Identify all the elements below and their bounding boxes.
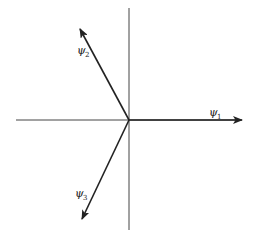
label-psi2-subscript: 2 [85, 51, 89, 59]
label-psi1: ψ 1 [209, 106, 221, 121]
label-psi2: ψ 2 [77, 44, 89, 59]
label-psi1-subscript: 1 [217, 113, 221, 121]
vector-psi3-arrow [82, 120, 129, 219]
vector-psi2-arrow [80, 29, 129, 120]
label-psi3-subscript: 3 [83, 194, 87, 202]
vector-diagram: ψ 1 ψ 2 ψ 3 [0, 0, 256, 239]
label-psi3: ψ 3 [75, 187, 87, 202]
